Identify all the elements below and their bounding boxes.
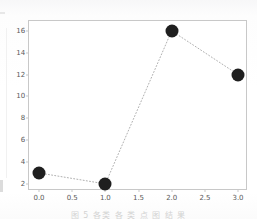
y-tick-label: 4 [21,158,25,166]
x-tick-label: 1.0 [100,194,111,202]
y-tick-label: 10 [16,92,25,100]
x-tick-label: 2.0 [166,194,177,202]
y-tick-label: 8 [21,114,25,122]
y-tick-label: 16 [16,27,25,35]
x-tick-mark [238,189,239,192]
x-tick-mark [138,189,139,192]
plot-canvas: 246810121416 0.00.51.01.52.02.53.0 [29,21,246,189]
y-tick-mark [26,162,29,163]
y-tick-label: 2 [21,180,25,188]
data-point-marker [99,177,112,190]
x-tick-label: 0.5 [67,194,78,202]
plot-frame: 246810121416 0.00.51.01.52.02.53.0 [28,20,247,190]
figure-caption: 图 5 各类 各 类 点 图 结 果 [0,209,257,219]
y-tick-label: 14 [16,49,25,57]
x-tick-mark [38,189,39,192]
y-tick-mark [26,140,29,141]
scatter-chart-figure: 246810121416 0.00.51.01.52.02.53.0 图 5 各… [0,0,257,219]
y-tick-label: 12 [16,71,25,79]
y-tick-mark [26,96,29,97]
x-tick-mark [204,189,205,192]
x-tick-label: 2.5 [199,194,210,202]
y-tick-label: 6 [21,136,25,144]
data-point-marker [165,24,178,37]
y-tick-mark [26,74,29,75]
data-point-marker [232,68,245,81]
series-line [29,21,248,191]
x-tick-label: 1.5 [133,194,144,202]
y-tick-mark [26,30,29,31]
x-tick-mark [171,189,172,192]
x-tick-mark [72,189,73,192]
y-tick-mark [26,52,29,53]
y-tick-mark [26,183,29,184]
x-tick-label: 3.0 [233,194,244,202]
x-tick-label: 0.0 [34,194,45,202]
data-point-marker [32,166,45,179]
y-tick-mark [26,118,29,119]
